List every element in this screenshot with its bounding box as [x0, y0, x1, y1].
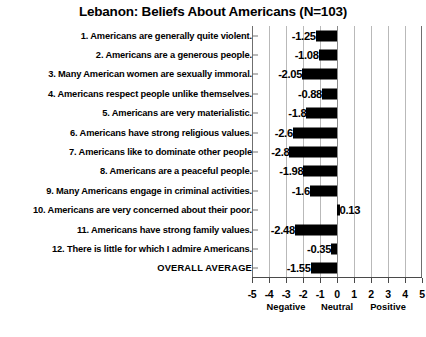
bar [322, 88, 337, 99]
category-tick [253, 268, 258, 269]
x-tick-label: 0 [334, 288, 340, 300]
x-tick [388, 278, 389, 283]
category-label: 7. Americans like to dominate other peop… [69, 147, 252, 157]
category-label: OVERALL AVERAGE [157, 263, 252, 273]
category-tick [253, 210, 258, 211]
x-tick [303, 278, 304, 283]
category-tick [253, 35, 258, 36]
value-label: -1.6 [292, 185, 310, 197]
bar-row: 10. Americans are very concerned about t… [0, 200, 426, 219]
x-axis-ticks [252, 278, 422, 288]
chart-container: Lebanon: Beliefs About Americans (N=103)… [0, 0, 426, 337]
bar-row: 7. Americans like to dominate other peop… [0, 142, 426, 161]
x-tick [405, 278, 406, 283]
category-label: 5. Americans are very materialistic. [102, 108, 252, 118]
bar-row: 3. Many American women are sexually immo… [0, 65, 426, 84]
bar [289, 146, 337, 157]
category-tick [253, 113, 258, 114]
bar-row: 9. Many Americans engage in criminal act… [0, 181, 426, 200]
bar-row: OVERALL AVERAGE-1.55 [0, 259, 426, 278]
x-tick [337, 278, 338, 283]
x-tick-label: -3 [282, 288, 291, 300]
category-tick [253, 151, 258, 152]
bar [319, 50, 337, 61]
zone-label: Negative [267, 302, 306, 312]
value-label: -1.98 [279, 165, 303, 177]
category-tick [253, 55, 258, 56]
category-tick [253, 93, 258, 94]
x-tick-label: 1 [351, 288, 357, 300]
category-label: 10. Americans are very concerned about t… [33, 205, 252, 215]
category-tick [253, 74, 258, 75]
x-tick-label: -2 [299, 288, 308, 300]
x-tick [252, 278, 253, 283]
x-tick-label: 2 [368, 288, 374, 300]
x-tick-label: -5 [248, 288, 257, 300]
category-tick [253, 171, 258, 172]
bar-row: 2. Americans are a generous people.-1.08 [0, 45, 426, 64]
x-tick [371, 278, 372, 283]
bar-row: 4. Americans respect people unlike thems… [0, 84, 426, 103]
value-label: -2.6 [275, 127, 293, 139]
x-tick [354, 278, 355, 283]
x-tick [286, 278, 287, 283]
zone-label: Positive [370, 302, 406, 312]
x-tick-label: -4 [265, 288, 274, 300]
x-tick-label: 4 [402, 288, 408, 300]
bar [316, 30, 337, 41]
category-label: 8. Americans are a peaceful people. [100, 166, 252, 176]
chart-title: Lebanon: Beliefs About Americans (N=103) [0, 4, 426, 19]
category-label: 2. Americans are a generous people. [96, 50, 252, 60]
x-axis-zone-labels: NegativeNeutralPositive [252, 302, 422, 316]
x-tick [269, 278, 270, 283]
bar-row: 1. Americans are generally quite violent… [0, 26, 426, 45]
category-tick [253, 132, 258, 133]
category-label: 3. Many American women are sexually immo… [48, 69, 252, 79]
category-label: 4. Americans respect people unlike thems… [48, 89, 252, 99]
category-label: 12. There is little for which I admire A… [52, 244, 252, 254]
category-tick [253, 190, 258, 191]
value-label: -1.55 [287, 262, 311, 274]
value-label: -0.35 [307, 243, 331, 255]
category-tick [253, 248, 258, 249]
category-label: 1. Americans are generally quite violent… [81, 31, 252, 41]
value-label: -2.8 [271, 146, 289, 158]
bar [310, 185, 337, 196]
x-tick-label: 5 [419, 288, 425, 300]
zone-label: Neutral [321, 302, 353, 312]
x-tick-label: 3 [385, 288, 391, 300]
x-axis-tick-labels: -5-4-3-2-1012345 [252, 288, 422, 302]
bar-row: 6. Americans have strong religious value… [0, 123, 426, 142]
value-label: 0.13 [340, 204, 361, 216]
value-label: -1.8 [288, 107, 306, 119]
bar [306, 108, 337, 119]
x-tick [320, 278, 321, 283]
value-label: -2.05 [278, 68, 302, 80]
bar-rows: 1. Americans are generally quite violent… [0, 26, 426, 278]
category-label: 6. Americans have strong religious value… [70, 128, 252, 138]
value-label: -1.08 [295, 49, 319, 61]
bar [293, 127, 337, 138]
value-label: -2.48 [271, 224, 295, 236]
bar [311, 263, 337, 274]
category-label: 9. Many Americans engage in criminal act… [46, 186, 252, 196]
bar-row: 8. Americans are a peaceful people.-1.98 [0, 162, 426, 181]
value-label: -0.88 [298, 88, 322, 100]
bar-row: 12. There is little for which I admire A… [0, 239, 426, 258]
bar [302, 69, 337, 80]
category-label: 11. Americans have strong family values. [77, 225, 252, 235]
bar-row: 5. Americans are very materialistic.-1.8 [0, 104, 426, 123]
category-tick [253, 229, 258, 230]
bar [331, 243, 337, 254]
bar-row: 11. Americans have strong family values.… [0, 220, 426, 239]
value-label: -1.25 [292, 30, 316, 42]
x-tick-label: -1 [316, 288, 325, 300]
bar [295, 224, 337, 235]
bar [303, 166, 337, 177]
x-tick [422, 278, 423, 283]
